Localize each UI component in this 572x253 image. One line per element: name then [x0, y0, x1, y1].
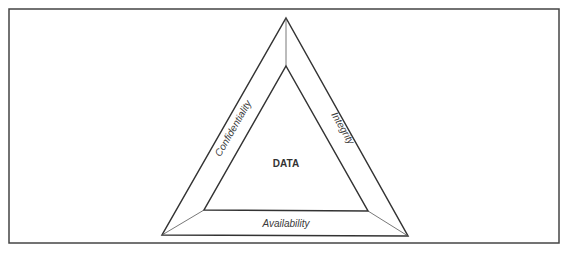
diagram-frame	[9, 9, 559, 243]
availability-label: Availability	[261, 218, 310, 229]
outer-triangle	[162, 18, 408, 236]
confidentiality-label: Confidentiality	[213, 97, 254, 158]
data-center-label: DATA	[273, 158, 299, 169]
connector-bottom-right	[368, 211, 408, 236]
cia-triad-diagram: Confidentiality Integrity Availability D…	[0, 0, 572, 253]
integrity-label: Integrity	[329, 110, 357, 147]
